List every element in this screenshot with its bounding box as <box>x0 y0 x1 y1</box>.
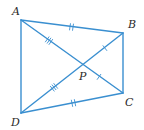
vertex-label-d: D <box>10 116 20 129</box>
vertex-label-c: C <box>125 96 134 109</box>
vertex-label-a: A <box>11 5 20 18</box>
vertex-label-b: B <box>127 18 136 31</box>
quadrilateral-diagram: A B C D P <box>0 0 144 130</box>
diagonal-db <box>21 33 123 113</box>
intersection-label-p: P <box>78 70 87 83</box>
